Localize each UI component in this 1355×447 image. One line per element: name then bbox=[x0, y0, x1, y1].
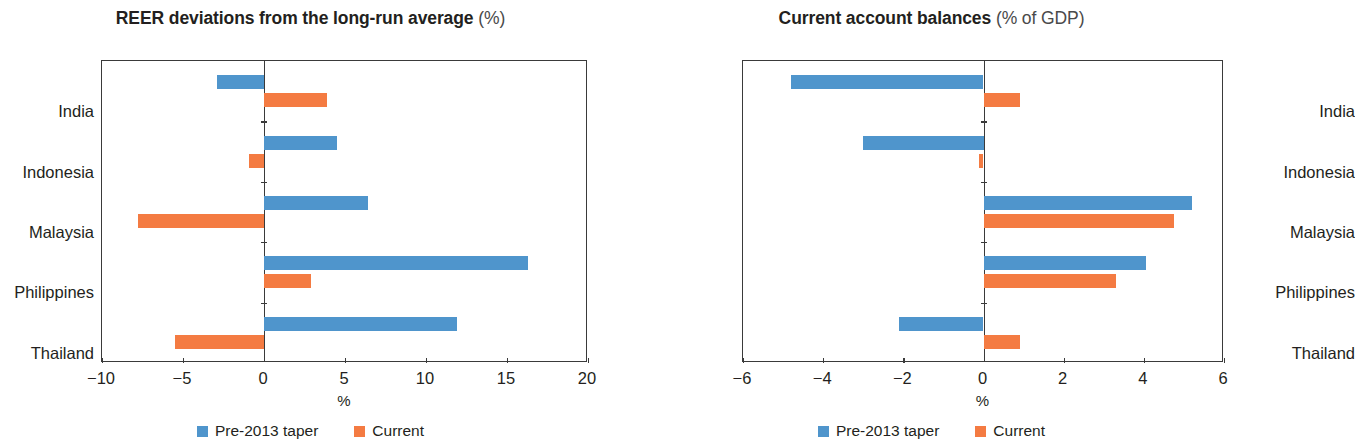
y-tick bbox=[261, 182, 267, 183]
chart-title-right: Current account balances (% of GDP) bbox=[621, 8, 1242, 29]
bar-malaysia-current bbox=[138, 214, 264, 228]
bar-indonesia-pre-2013-taper bbox=[863, 136, 983, 150]
x-tick-label: −6 bbox=[733, 369, 752, 388]
bar-india-current bbox=[984, 93, 1020, 107]
y-axis-labels-right: IndiaIndonesiaMalaysiaPhilippinesThailan… bbox=[1241, 60, 1355, 362]
bar-india-current bbox=[264, 93, 327, 107]
x-tick-label: 2 bbox=[1058, 369, 1067, 388]
y-tick bbox=[261, 303, 267, 304]
x-tick-label: 15 bbox=[497, 369, 515, 388]
x-axis-title: % bbox=[337, 392, 350, 409]
x-tick-label: 20 bbox=[578, 369, 596, 388]
x-tick bbox=[1224, 358, 1225, 363]
bar-india-pre-2013-taper bbox=[217, 75, 264, 89]
panel-reer-deviations: REER deviations from the long-run averag… bbox=[0, 0, 621, 447]
x-tick bbox=[426, 358, 427, 363]
y-axis-label-philippines: Philippines bbox=[14, 283, 94, 301]
x-tick-label: 10 bbox=[416, 369, 434, 388]
bar-indonesia-current bbox=[979, 154, 983, 168]
bar-thailand-pre-2013-taper bbox=[899, 317, 983, 331]
y-axis-labels-left: IndiaIndonesiaMalaysiaPhilippinesThailan… bbox=[0, 60, 94, 362]
panel-current-account: Current account balances (% of GDP) Indi… bbox=[621, 0, 1242, 447]
bar-indonesia-current bbox=[249, 154, 264, 168]
x-tick-label: 4 bbox=[1138, 369, 1147, 388]
x-tick-label: −2 bbox=[893, 369, 912, 388]
legend-square-orange bbox=[354, 426, 365, 437]
bar-philippines-pre-2013-taper bbox=[984, 256, 1146, 270]
legend-square-blue bbox=[197, 426, 208, 437]
legend-label: Current bbox=[372, 422, 424, 440]
chart-title-left-main: REER deviations from the long-run averag… bbox=[116, 8, 474, 28]
x-tick bbox=[183, 358, 184, 363]
x-tick bbox=[823, 358, 824, 363]
y-axis-label-indonesia: Indonesia bbox=[22, 163, 94, 181]
y-tick bbox=[981, 121, 987, 122]
bar-thailand-current bbox=[175, 335, 264, 349]
legend-label: Pre-2013 taper bbox=[836, 422, 939, 440]
bar-philippines-pre-2013-taper bbox=[264, 256, 528, 270]
x-tick-label: 0 bbox=[978, 369, 987, 388]
legend-item: Pre-2013 taper bbox=[197, 422, 318, 440]
y-axis-label-thailand: Thailand bbox=[31, 344, 94, 362]
legend-item: Pre-2013 taper bbox=[818, 422, 939, 440]
plot-area-right bbox=[742, 60, 1223, 362]
x-tick bbox=[903, 358, 904, 363]
bar-thailand-pre-2013-taper bbox=[264, 317, 457, 331]
x-axis-title: % bbox=[976, 392, 989, 409]
x-tick bbox=[345, 358, 346, 363]
x-tick-label: −4 bbox=[813, 369, 832, 388]
y-axis-label-indonesia: Indonesia bbox=[1283, 163, 1355, 181]
bar-india-pre-2013-taper bbox=[791, 75, 983, 89]
y-tick bbox=[981, 182, 987, 183]
x-tick-label: 0 bbox=[258, 369, 267, 388]
x-tick bbox=[102, 358, 103, 363]
legend-item: Current bbox=[354, 422, 424, 440]
plot-area-left bbox=[101, 60, 587, 362]
legend-item: Current bbox=[975, 422, 1045, 440]
legend-square-orange bbox=[975, 426, 986, 437]
y-tick bbox=[981, 303, 987, 304]
bar-indonesia-pre-2013-taper bbox=[264, 136, 337, 150]
y-axis-label-philippines: Philippines bbox=[1275, 283, 1355, 301]
chart-title-right-main: Current account balances bbox=[779, 8, 992, 28]
y-axis-label-india: India bbox=[58, 102, 94, 120]
y-axis-label-malaysia: Malaysia bbox=[1290, 223, 1355, 241]
legend-left: Pre-2013 taperCurrent bbox=[0, 422, 621, 440]
x-tick-label: −5 bbox=[173, 369, 192, 388]
x-tick-label: 6 bbox=[1218, 369, 1227, 388]
x-tick bbox=[1064, 358, 1065, 363]
chart-title-left-units: (%) bbox=[478, 8, 505, 28]
y-tick bbox=[261, 242, 267, 243]
y-axis-label-malaysia: Malaysia bbox=[29, 223, 94, 241]
bar-malaysia-pre-2013-taper bbox=[264, 196, 368, 210]
chart-title-right-units: (% of GDP) bbox=[996, 8, 1084, 28]
legend-label: Pre-2013 taper bbox=[215, 422, 318, 440]
x-tick bbox=[588, 358, 589, 363]
bar-malaysia-pre-2013-taper bbox=[984, 196, 1192, 210]
chart-title-left: REER deviations from the long-run averag… bbox=[0, 8, 621, 29]
bar-philippines-current bbox=[984, 274, 1116, 288]
y-axis-label-thailand: Thailand bbox=[1292, 344, 1355, 362]
y-axis-label-india: India bbox=[1319, 102, 1355, 120]
y-tick bbox=[981, 242, 987, 243]
bar-thailand-current bbox=[984, 335, 1020, 349]
bar-malaysia-current bbox=[984, 214, 1174, 228]
x-tick-label: −10 bbox=[87, 369, 115, 388]
x-tick bbox=[743, 358, 744, 363]
y-tick bbox=[261, 121, 267, 122]
x-tick-label: 5 bbox=[339, 369, 348, 388]
legend-right: Pre-2013 taperCurrent bbox=[621, 422, 1242, 440]
legend-square-blue bbox=[818, 426, 829, 437]
bar-philippines-current bbox=[264, 274, 311, 288]
legend-label: Current bbox=[993, 422, 1045, 440]
x-tick bbox=[1144, 358, 1145, 363]
x-tick bbox=[507, 358, 508, 363]
